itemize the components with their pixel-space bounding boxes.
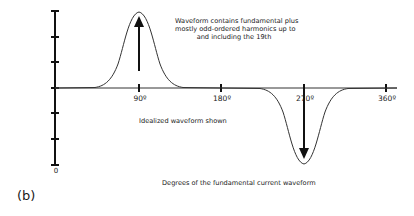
panel-label: (b) bbox=[17, 189, 35, 202]
x-tick-label-180: 180º bbox=[213, 95, 231, 103]
x-tick-label-90: 90º bbox=[133, 95, 146, 103]
x-axis-caption: Degrees of the fundamental current wavef… bbox=[162, 180, 316, 187]
idealized-note: Idealized waveform shown bbox=[139, 118, 227, 125]
harmonics-annotation: Waveform contains fundamental plus mostl… bbox=[175, 17, 293, 41]
annotation-line-1: Waveform contains fundamental plus bbox=[175, 17, 293, 25]
annotation-line-2: mostly odd-ordered harmonics up to bbox=[175, 25, 293, 33]
y-zero-label: 0 bbox=[54, 168, 58, 175]
x-tick-label-360: 360º bbox=[378, 95, 396, 103]
x-tick-label-270: 270º bbox=[296, 95, 314, 103]
annotation-line-3: and including the 19th bbox=[175, 33, 293, 41]
up-arrow-icon bbox=[134, 16, 144, 71]
